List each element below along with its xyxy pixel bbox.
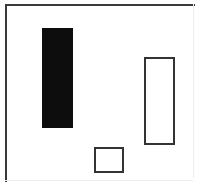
frame-right-edge: [193, 4, 194, 178]
outlined-bar-shape: [144, 57, 175, 145]
outlined-square-shape: [94, 147, 124, 173]
figure-canvas: [0, 0, 201, 186]
frame-bottom-edge: [5, 180, 193, 181]
filled-bar-shape: [42, 28, 73, 128]
